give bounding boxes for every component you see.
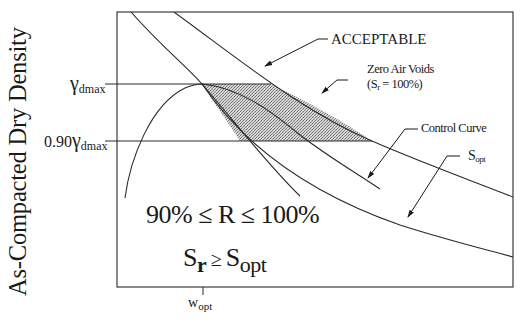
plot-frame — [117, 12, 513, 287]
y-tick-label-gamma-dmax: γdmax — [70, 72, 106, 97]
y-tick-label-gamma-090: 0.90γdmax — [44, 129, 108, 154]
control-curve-leader — [368, 129, 418, 178]
criteria-r-range: 90% ≤ R ≤ 100% — [146, 200, 319, 230]
zav-leader — [322, 80, 348, 93]
zav-label-line1: Zero Air Voids — [367, 62, 434, 77]
y-axis-label: As-Compacted Dry Density — [4, 27, 32, 296]
acceptable-leader — [265, 39, 328, 66]
acceptable-label: ACCEPTABLE — [331, 31, 426, 48]
criteria-saturation: Sr ≥ Sopt — [183, 243, 266, 278]
sopt-leader — [408, 156, 460, 217]
sopt-label: Sopt — [468, 148, 485, 164]
compaction-diagram — [0, 0, 524, 332]
control-curve-label: Control Curve — [421, 121, 486, 136]
acceptable-region — [202, 84, 372, 141]
x-tick-label-wopt: wopt — [188, 295, 212, 312]
zav-label-line2: (Sr = 100%) — [367, 77, 422, 92]
